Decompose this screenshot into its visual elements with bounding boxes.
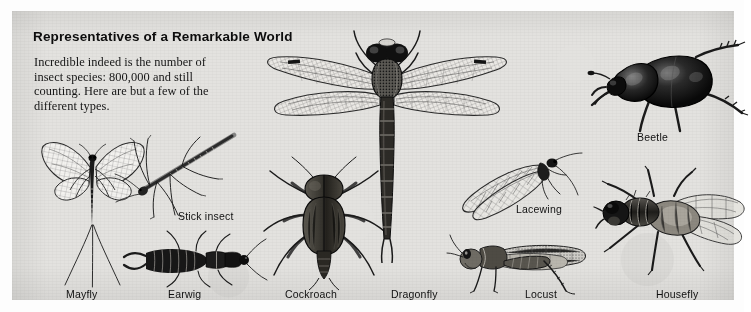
figure-beetle	[588, 35, 748, 135]
label-housefly: Housefly	[656, 288, 698, 300]
stick-insect-illustration	[115, 135, 234, 219]
intro-paragraph: Incredible indeed is the number of insec…	[34, 55, 224, 113]
dragonfly-illustration	[268, 31, 507, 263]
figure-locust	[452, 233, 597, 295]
figure-stick-insect	[112, 129, 257, 221]
label-cockroach: Cockroach	[285, 288, 337, 300]
label-lacewing: Lacewing	[516, 203, 562, 215]
housefly-illustration	[594, 166, 744, 275]
illustration-panel: Mayfly	[12, 11, 734, 300]
page-title: Representatives of a Remarkable World	[33, 29, 293, 44]
earwig-illustration	[124, 231, 267, 287]
label-mayfly: Mayfly	[66, 288, 98, 300]
locust-illustration	[447, 235, 586, 294]
label-dragonfly: Dragonfly	[391, 288, 438, 300]
figure-earwig	[120, 229, 250, 289]
figure-housefly	[596, 166, 751, 286]
label-locust: Locust	[525, 288, 557, 300]
beetle-illustration	[588, 40, 748, 131]
label-stick-insect: Stick insect	[178, 210, 234, 222]
label-earwig: Earwig	[168, 288, 201, 300]
label-beetle: Beetle	[637, 131, 668, 143]
